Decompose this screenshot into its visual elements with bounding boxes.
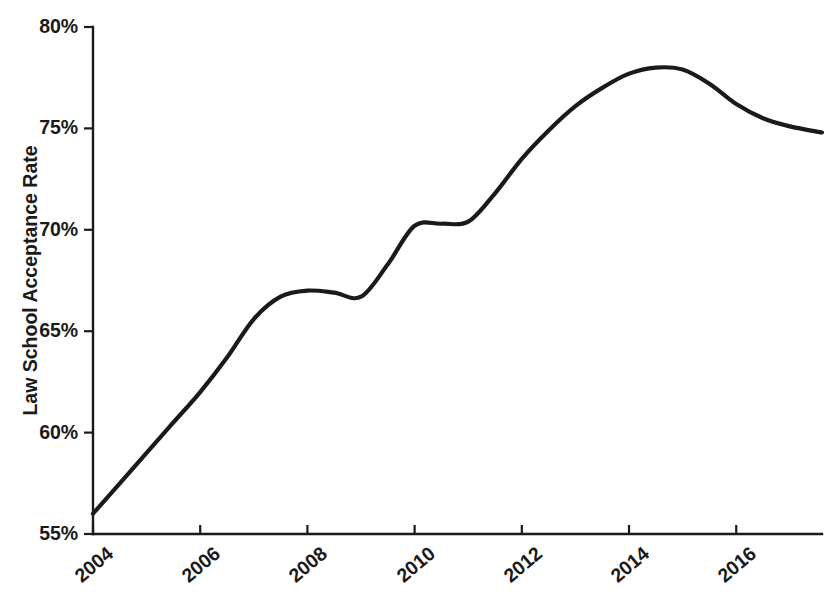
y-tick-label: 75% (39, 116, 78, 139)
y-tick-label: 55% (39, 522, 78, 545)
y-tick-label: 70% (39, 218, 78, 241)
x-tick-marks (93, 525, 736, 534)
plot-area (0, 0, 836, 608)
y-tick-marks (84, 27, 93, 534)
y-axis-title: Law School Acceptance Rate (19, 145, 42, 415)
series-line-acceptance-rate (93, 67, 822, 514)
line-chart: Law School Acceptance Rate 55%60%65%70%7… (0, 0, 836, 608)
y-tick-label: 65% (39, 319, 78, 342)
y-tick-label: 80% (39, 15, 78, 38)
axes-group (84, 27, 822, 534)
y-tick-label: 60% (39, 421, 78, 444)
